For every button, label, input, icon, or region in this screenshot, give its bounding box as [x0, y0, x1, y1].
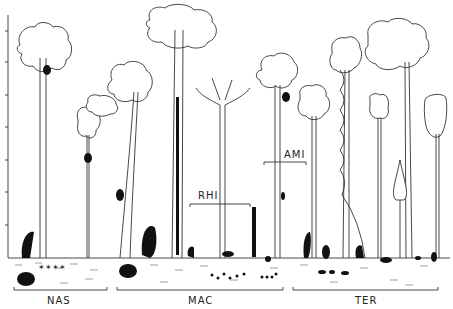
star-markers: ✶✶✶✶ — [38, 263, 66, 272]
ami-annotation: AMI — [264, 149, 306, 165]
tree-4 — [146, 4, 216, 258]
zone-label-mac: MAC — [188, 295, 213, 306]
underground-nodules — [211, 273, 278, 280]
tree-1 — [17, 22, 71, 258]
tree-3 — [86, 61, 152, 258]
tree-2 — [77, 106, 100, 258]
zone-label-nas: NAS — [47, 295, 71, 306]
svg-text:✶✶✶✶: ✶✶✶✶ — [38, 263, 66, 272]
forest-profile-diagram: ✶✶✶✶ RHI AMI NAS MAC TER — [0, 0, 453, 309]
zone-label-ter: TER — [354, 295, 377, 306]
tree-12 — [424, 94, 446, 258]
rhi-label: RHI — [198, 190, 218, 201]
ami-label: AMI — [284, 149, 305, 160]
tree-10 — [370, 94, 389, 258]
termite-mounds — [17, 207, 437, 286]
tree-7 — [298, 85, 330, 258]
tree-5 — [196, 78, 250, 258]
tree-8 — [330, 37, 365, 258]
tree-9 — [365, 18, 429, 258]
ground-litter — [15, 263, 428, 285]
tree-11 — [393, 160, 406, 258]
zone-brackets: NAS MAC TER — [14, 287, 438, 306]
